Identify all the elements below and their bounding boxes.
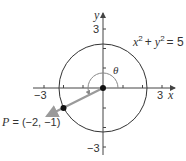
theta-label: θ (113, 64, 119, 76)
terminal-ray (47, 88, 103, 116)
point-p (61, 105, 67, 111)
x-tick-label-neg: −3 (34, 89, 47, 101)
origin-point (100, 85, 106, 91)
y-tick-label-neg: −3 (87, 142, 100, 154)
point-p-label: P = (−2, −1) (1, 115, 60, 129)
x-axis-label: x (167, 88, 174, 102)
y-tick-label-pos: 3 (93, 23, 99, 35)
circle-equation: x2+y2= 5 (132, 34, 184, 49)
y-axis-label: y (93, 8, 100, 22)
x-tick-label-pos: 3 (157, 89, 163, 101)
svg-text:x2+y2= 5: x2+y2= 5 (132, 34, 184, 49)
unit-circle-diagram: y x 3 −3 −3 3 θ x2+y2= 5 P = (−2, −1) (0, 0, 186, 161)
